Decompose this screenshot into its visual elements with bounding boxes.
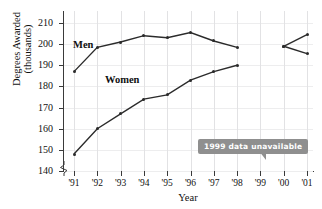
x-tick-99	[260, 171, 261, 176]
x-tick-label-99: '99	[249, 178, 271, 188]
marker-men-98	[236, 46, 239, 49]
y-tick-label-200: 200	[38, 39, 53, 49]
x-tick-label-98: '98	[226, 178, 248, 188]
y-tick-label-210: 210	[38, 18, 53, 28]
y-axis-title: Degrees Awarded (thousands)	[11, 0, 33, 107]
x-tick-98	[237, 171, 238, 176]
gridline-y-140	[63, 171, 313, 172]
line-chart: Degrees Awarded (thousands) Year 1401501…	[0, 0, 322, 209]
series-line-men	[284, 46, 307, 53]
y-tick-label-190: 190	[38, 60, 53, 70]
x-tick-label-00: '00	[273, 178, 295, 188]
y-tick-label-160: 160	[38, 124, 53, 134]
x-tick-label-93: '93	[110, 178, 132, 188]
series-label-women: Women	[105, 74, 139, 85]
x-tick-label-01: '01	[296, 178, 318, 188]
x-tick-95	[167, 171, 168, 176]
y-tick-label-150: 150	[38, 145, 53, 155]
marker-men-01	[306, 52, 309, 55]
marker-women-98	[236, 64, 239, 67]
marker-women-91	[73, 153, 76, 156]
marker-men-96	[189, 31, 192, 34]
x-axis-title: Year	[60, 192, 316, 203]
y-tick-label-170: 170	[38, 103, 53, 113]
y-axis-title-line2: (thousands)	[22, 0, 33, 107]
x-tick-01	[307, 171, 308, 176]
series-line-men	[74, 33, 237, 72]
x-tick-91	[74, 171, 75, 176]
y-axis-title-line1: Degrees Awarded	[11, 12, 22, 86]
x-tick-label-95: '95	[156, 178, 178, 188]
x-tick-label-96: '96	[180, 178, 202, 188]
annotation-callout: 1999 data unavailable	[198, 139, 308, 154]
y-tick-label-180: 180	[38, 81, 53, 91]
marker-women-96	[189, 79, 192, 82]
x-tick-label-92: '92	[86, 178, 108, 188]
series-label-men: Men	[73, 39, 93, 50]
x-tick-00	[284, 171, 285, 176]
x-tick-97	[214, 171, 215, 176]
x-tick-92	[97, 171, 98, 176]
marker-men-91	[73, 70, 76, 73]
x-tick-label-94: '94	[133, 178, 155, 188]
x-tick-label-91: '91	[63, 178, 85, 188]
x-tick-label-97: '97	[203, 178, 225, 188]
y-axis-break-icon	[58, 160, 70, 176]
marker-women-01	[306, 33, 309, 36]
marker-men-93	[119, 41, 122, 44]
series-line-women	[284, 35, 307, 47]
plot-area: 140150160170180190200210 '91'92'93'94'95…	[63, 11, 313, 171]
marker-women-00	[282, 45, 285, 48]
x-tick-96	[191, 171, 192, 176]
x-tick-93	[121, 171, 122, 176]
marker-men-92	[96, 46, 99, 49]
x-tick-94	[144, 171, 145, 176]
y-tick-label-140: 140	[38, 166, 53, 176]
